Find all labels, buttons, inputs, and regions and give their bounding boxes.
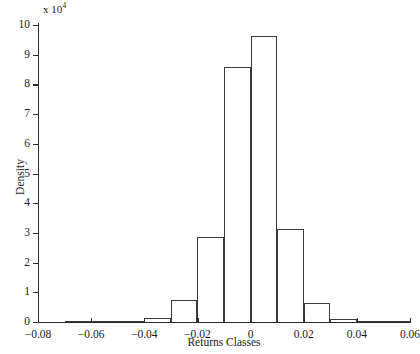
x-axis-tick [144,318,145,323]
y-axis-tick-label: 9 [24,49,30,61]
histogram-bar [171,300,198,322]
histogram-bar [277,229,304,322]
y-axis-tick [33,263,38,264]
x-axis-tick-label: −0.06 [78,329,105,341]
histogram-bar [304,303,331,322]
y-axis-tick-label: 6 [24,138,30,150]
x-axis-tick [304,318,305,323]
histogram-bar [330,319,357,322]
histogram-bar [251,36,278,322]
y-axis-tick [33,114,38,115]
y-axis-tick [33,84,38,85]
x-axis-tick-label: 0.04 [347,329,367,341]
x-axis-tick [197,318,198,323]
histogram-bar [224,67,251,322]
histogram-bar [197,237,224,322]
histogram-bar [144,318,171,322]
y-axis-tick [33,292,38,293]
y-axis-multiplier-base: x 10 [43,3,62,15]
y-axis-tick-label: 0 [24,316,30,328]
y-axis-tick-label: 4 [24,197,30,209]
y-axis-tick [33,174,38,175]
x-axis-tick [357,318,358,323]
y-axis-tick-label: 1 [24,287,30,299]
histogram-bar [357,321,384,322]
x-axis-tick-label: −0.02 [184,329,211,341]
x-axis-tick-label: −0.04 [131,329,158,341]
x-axis-tick-label: 0 [248,329,254,341]
y-axis-tick-label: 3 [24,227,30,239]
x-axis-tick-label: 0.02 [294,329,314,341]
y-axis-tick [33,55,38,56]
y-axis-tick-label: 2 [24,257,30,269]
histogram-bar [383,321,410,322]
histogram-bar [91,321,118,322]
x-axis-tick [38,318,39,323]
plot-area: 012345678910 −0.08−0.06−0.04−0.0200.020.… [38,25,410,322]
x-axis-tick [410,318,411,323]
y-axis-tick [33,203,38,204]
y-axis-tick-label: 7 [24,108,30,120]
y-axis-tick-label: 5 [24,168,30,180]
x-axis-tick-label: 0.06 [400,329,420,341]
y-axis-multiplier: x 104 [43,2,66,15]
histogram-bar [65,321,92,322]
y-axis-tick-label: 8 [24,79,30,91]
histogram-bar [118,321,145,322]
y-axis-tick [33,144,38,145]
y-axis-tick [33,233,38,234]
y-axis-tick-label: 10 [19,19,31,31]
y-axis-multiplier-exponent: 4 [62,1,66,10]
x-axis-tick [251,318,252,323]
x-axis-tick [91,318,92,323]
x-axis-tick-label: −0.08 [25,329,52,341]
y-axis-tick [33,25,38,26]
